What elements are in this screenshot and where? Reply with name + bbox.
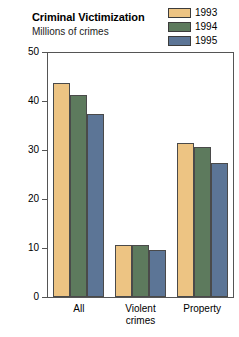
x-axis-label-line: crimes — [110, 315, 172, 327]
bar-property-1995 — [211, 163, 228, 297]
y-tick-label-0: 0 — [15, 292, 39, 302]
x-axis-label-line: All — [48, 303, 110, 315]
y-tick-label-50: 50 — [15, 47, 39, 57]
chart-subtitle: Millions of crimes — [32, 25, 162, 38]
y-tick-mark-0 — [42, 297, 47, 298]
bar-all-1993 — [53, 83, 70, 297]
bar-property-1994 — [194, 147, 211, 297]
x-axis-label-line: Property — [171, 303, 233, 315]
bar-violent-crimes-1995 — [149, 250, 166, 297]
x-axis-label-all: All — [48, 303, 110, 315]
y-tick-label-30: 30 — [15, 145, 39, 155]
x-axis-label-violent-crimes: Violentcrimes — [110, 303, 172, 327]
legend-label-1993: 1993 — [195, 8, 217, 18]
legend-swatch-1993 — [168, 8, 191, 18]
y-tick-mark-40 — [42, 101, 47, 102]
legend-item-1993: 1993 — [168, 6, 217, 19]
x-axis-label-property: Property — [171, 303, 233, 315]
y-tick-label-10: 10 — [15, 243, 39, 253]
legend-item-1994: 1994 — [168, 20, 217, 33]
plot-frame-right — [233, 52, 234, 298]
chart-title: Criminal Victimization — [32, 11, 162, 24]
title-block: Criminal Victimization Millions of crime… — [32, 11, 162, 38]
legend-label-1995: 1995 — [195, 36, 217, 46]
legend-swatch-1994 — [168, 22, 191, 32]
bar-all-1994 — [70, 95, 87, 297]
legend-item-1995: 1995 — [168, 34, 217, 47]
chart-legend: 199319941995 — [168, 6, 217, 48]
bar-property-1993 — [177, 143, 194, 297]
legend-label-1994: 1994 — [195, 22, 217, 32]
y-tick-mark-20 — [42, 199, 47, 200]
y-tick-mark-10 — [42, 248, 47, 249]
criminal-victimization-bar-chart: Criminal Victimization Millions of crime… — [0, 0, 239, 337]
y-tick-label-20: 20 — [15, 194, 39, 204]
y-tick-label-40: 40 — [15, 96, 39, 106]
x-axis-line — [47, 297, 234, 298]
bar-violent-crimes-1993 — [115, 245, 132, 297]
y-tick-mark-30 — [42, 150, 47, 151]
legend-swatch-1995 — [168, 36, 191, 46]
x-axis-label-line: Violent — [110, 303, 172, 315]
bar-all-1995 — [87, 114, 104, 297]
bars-layer — [48, 52, 233, 297]
y-tick-mark-50 — [42, 52, 47, 53]
bar-violent-crimes-1994 — [132, 245, 149, 297]
